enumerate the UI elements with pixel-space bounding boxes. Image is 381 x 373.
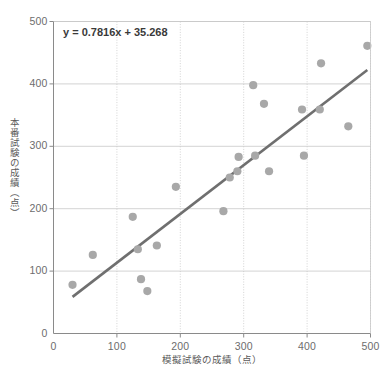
data-point [153,241,161,249]
data-point [298,105,306,113]
x-tick-label: 200 [165,340,195,352]
data-point [317,59,325,67]
data-point [134,245,142,253]
data-point [251,152,259,160]
x-axis-title: 模擬試験の成績（点） [53,352,370,366]
x-tick-label: 400 [292,340,322,352]
data-point [219,207,227,215]
scatter-chart: y = 0.7816x + 35.268 本番試験の成績（点） 模擬試験の成績（… [0,0,381,373]
y-tick-label: 0 [18,327,48,339]
data-point [172,183,180,191]
data-point [233,167,241,175]
data-point [265,167,273,175]
data-point [344,122,352,130]
x-tick-label: 300 [229,340,259,352]
data-point [300,152,308,160]
y-tick-label: 300 [18,139,48,151]
y-tick-label: 200 [18,202,48,214]
plot-area [0,0,381,373]
data-point [89,251,97,259]
plot-background [54,22,371,334]
data-point [260,100,268,108]
regression-equation-label: y = 0.7816x + 35.268 [63,26,168,38]
data-point [316,105,324,113]
data-point [137,275,145,283]
x-tick-label: 0 [39,340,69,352]
y-tick-label: 400 [18,77,48,89]
data-point [143,287,151,295]
y-tick-label: 500 [18,15,48,27]
data-point [68,281,76,289]
data-point [129,213,137,221]
data-point [235,153,243,161]
data-point [226,173,234,181]
x-tick-label: 100 [102,340,132,352]
y-tick-label: 100 [18,264,48,276]
x-tick-label: 500 [356,340,381,352]
data-point [249,81,257,89]
